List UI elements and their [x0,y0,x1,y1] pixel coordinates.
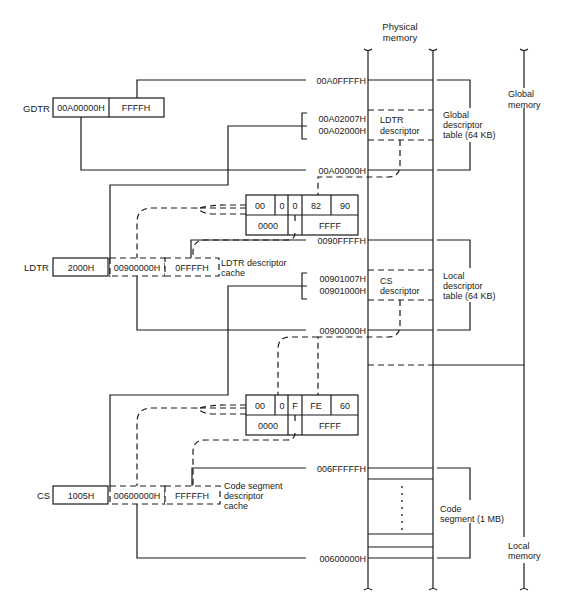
cs-cache-base-value: 00600000H [114,491,161,501]
physical-memory-title-1: Physical [382,21,417,32]
cs-desc-limit: FFFF [319,421,341,431]
ldtr-desc-byte-3: 82 [311,201,321,211]
ldtr-desc-base-lo: 0000 [258,221,278,231]
gdt-label-3: table (64 KB) [443,130,496,140]
cs-desc-byte-1: 0 [279,401,284,411]
ldtr-desc-byte-1: 0 [279,201,284,211]
ldtr-desc-byte-0: 00 [255,201,265,211]
code-segment-label-1: Code [440,504,462,514]
physical-memory-title-2: memory [383,32,418,43]
ldt-label-2: descriptor [443,281,483,291]
addr-cs-top: 006FFFFFH [317,464,366,474]
ldtr-cache-label-2: cache [221,268,245,278]
cs-cache-label-3: cache [224,501,248,511]
gdtr-label: GDTR [23,103,50,114]
memory-scope-axis [520,49,528,590]
global-memory-label-2: memory [508,100,541,110]
cs-cache-label-1: Code segment [224,481,283,491]
gdtr-limit: FFFFH [122,103,151,113]
global-memory-label-1: Global [508,89,534,99]
code-segment-label-2: segment (1 MB) [440,514,504,524]
gdt-label-1: Global [443,110,469,120]
addr-ldt-base: 00900000H [319,326,366,336]
ldtr-cache-limit-value: 0FFFFH [175,263,209,273]
addr-cs-desc-hi: 00901007H [319,274,366,284]
cs-label: CS [37,490,50,501]
ldtr-desc-byte-4: 90 [340,201,350,211]
local-memory-label-2: memory [508,551,541,561]
ldt-label-1: Local [443,271,465,281]
code-segment-ellipsis [401,486,403,530]
cs-desc-byte-2: F [292,401,298,411]
protected-mode-memory-diagram: Physical memory Global memory Local memo… [0,0,565,614]
ldtr-descriptor-block-1: LDTR [380,115,404,125]
addr-cs-desc-lo: 00901000H [319,286,366,296]
gdt-label-2: descriptor [443,120,483,130]
ldtr-cache-label-1: LDTR descriptor [221,258,287,268]
ldtr-desc-limit: FFFF [319,221,341,231]
ldtr-desc-byte-2: 0 [292,201,297,211]
cs-desc-byte-4: 60 [340,401,350,411]
ldtr-label: LDTR [24,262,49,273]
ldt-label-3: table (64 KB) [443,291,496,301]
addr-gdt-top: 00A0FFFFH [316,76,366,86]
cs-desc-base-lo: 0000 [258,421,278,431]
ldtr-selector-value: 2000H [68,263,95,273]
addr-gdt-base: 00A00000H [318,166,366,176]
ldtr-cache-base-value: 00900000H [114,263,161,273]
cs-descriptor-block-1: CS [380,276,393,286]
addr-ldtr-desc-lo: 00A02000H [318,126,366,136]
addr-cs-base: 00600000H [319,554,366,564]
gdtr-base: 00A00000H [57,103,105,113]
cs-selector-value: 1005H [68,491,95,501]
cs-desc-byte-3: FE [310,401,322,411]
addr-ldtr-desc-hi: 00A02007H [318,114,366,124]
ldtr-descriptor-block-2: descriptor [380,126,420,136]
cs-desc-byte-0: 00 [255,401,265,411]
cs-cache-label-2: descriptor [224,491,264,501]
cs-cache-limit-value: FFFFFH [175,491,209,501]
cs-descriptor-block-2: descriptor [380,286,420,296]
addr-ldt-top: 0090FFFFH [317,236,366,246]
local-memory-label-1: Local [508,541,530,551]
